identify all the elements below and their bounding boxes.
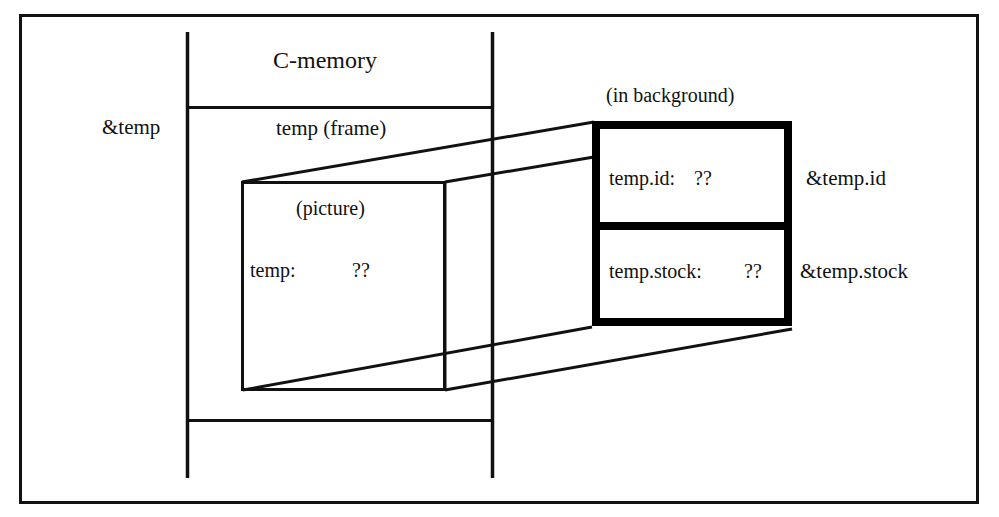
region-label-picture: (picture)	[296, 198, 365, 218]
cell-name-temp: temp:	[250, 260, 296, 280]
region-label-temp-frame: temp (frame)	[276, 118, 386, 139]
region-label-in-background: (in background)	[606, 85, 734, 105]
projection-upper-right-edge	[445, 157, 594, 182]
pointer-label-temp-id: &temp.id	[806, 168, 886, 189]
projection-lower-right-edge	[445, 329, 792, 390]
cell-value-temp-stock: ??	[744, 261, 762, 281]
pointer-label-temp-stock: &temp.stock	[800, 261, 908, 282]
projection-bottom-edge	[243, 327, 592, 390]
cell-name-temp-stock: temp.stock:	[609, 261, 702, 281]
diagram-canvas: C-memory &temp temp (frame) (in backgrou…	[0, 0, 999, 517]
cell-name-temp-id: temp.id:	[609, 168, 675, 188]
cell-value-temp-id: ??	[694, 168, 712, 188]
pointer-label-temp: &temp	[102, 117, 160, 138]
c-memory-title: C-memory	[273, 48, 377, 72]
cell-value-temp: ??	[352, 260, 370, 280]
